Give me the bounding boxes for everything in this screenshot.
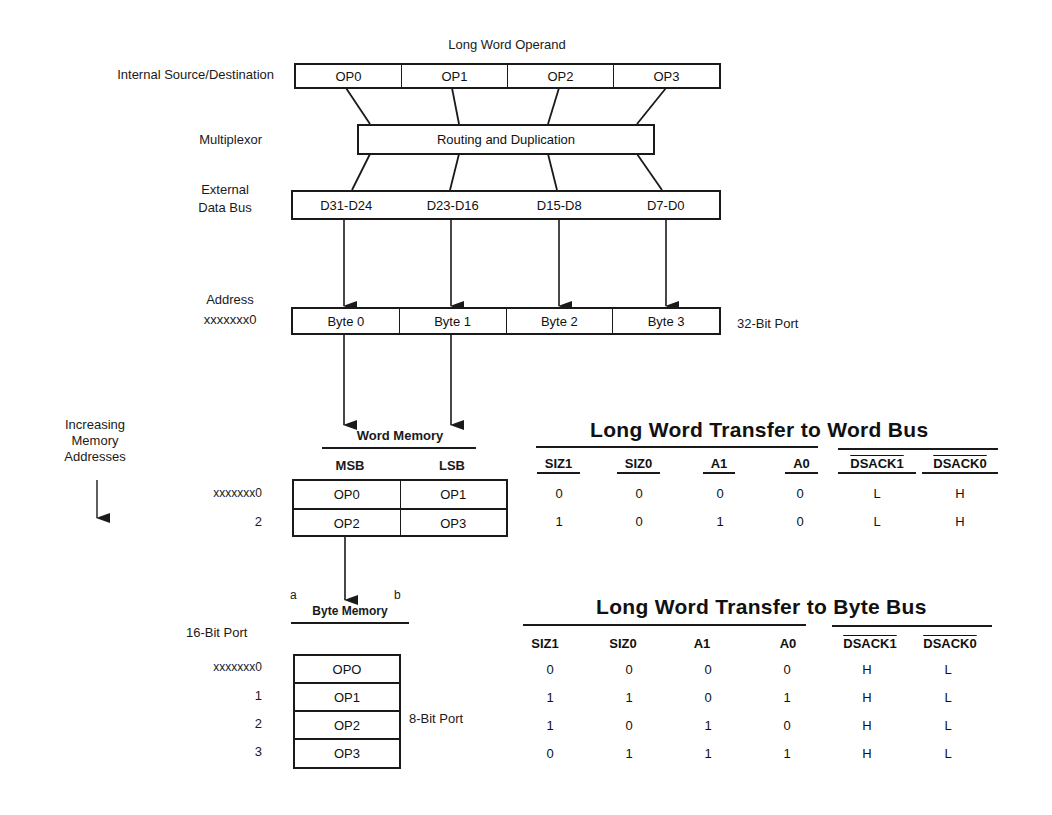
cell: L <box>862 514 892 529</box>
cell: 1 <box>544 514 574 529</box>
word-cell-op1: OP1 <box>401 481 507 508</box>
port-32-label: 32-Bit Port <box>737 316 798 331</box>
word-cell-op2: OP2 <box>294 510 401 537</box>
cell: 1 <box>693 718 723 733</box>
data-bus-d31-d24: D31-D24 <box>293 192 400 218</box>
routing-label: Routing and Duplication <box>359 126 653 153</box>
byte-cell-op3: OP3 <box>295 740 399 767</box>
byte-row-addr-3: 3 <box>180 744 262 759</box>
marker-b: b <box>394 588 401 602</box>
cell: 0 <box>772 662 802 677</box>
byte-bus-header-dsack0: DSACK0 <box>913 636 987 651</box>
word-bus-header-siz0: SIZ0 <box>617 456 660 474</box>
cell: L <box>933 690 963 705</box>
word-bus-table-title: Long Word Transfer to Word Bus <box>590 418 928 442</box>
cell: L <box>862 486 892 501</box>
port-16-label: 16-Bit Port <box>186 625 247 640</box>
cell: 0 <box>544 486 574 501</box>
byte-memory-title: Byte Memory <box>290 604 410 618</box>
word-bus-header-dsack0: DSACK0 <box>922 456 998 474</box>
cell: 0 <box>535 746 565 761</box>
cell: 1 <box>614 746 644 761</box>
byte-cell-op1: OP1 <box>295 684 399 712</box>
multiplexor-label: Multiplexor <box>100 132 262 147</box>
cell: 0 <box>785 514 815 529</box>
address-label: Address <box>180 292 280 307</box>
cell: L <box>933 718 963 733</box>
data-bus-label: Data Bus <box>180 200 270 215</box>
operand-cell-op3: OP3 <box>614 65 719 87</box>
cell: 1 <box>772 746 802 761</box>
byte-bus-header-a0: A0 <box>773 636 803 651</box>
data-bus-d7-d0: D7-D0 <box>613 192 720 218</box>
byte-bus-table-title: Long Word Transfer to Byte Bus <box>596 595 927 619</box>
data-bus-d23-d16: D23-D16 <box>400 192 507 218</box>
cell: 1 <box>693 746 723 761</box>
cell: 0 <box>624 514 654 529</box>
byte-row-addr-2: 2 <box>180 716 262 731</box>
cell: H <box>852 718 882 733</box>
byte-lane-3: Byte 3 <box>613 309 719 333</box>
internal-source-label: Internal Source/Destination <box>20 67 274 82</box>
word-memory-title: Word Memory <box>322 428 478 443</box>
word-bus-header-siz1: SIZ1 <box>537 456 580 474</box>
cell: 0 <box>705 486 735 501</box>
byte-bus-rule-left <box>523 624 806 626</box>
cell: 0 <box>785 486 815 501</box>
byte-lane-2: Byte 2 <box>507 309 614 333</box>
increasing-label-1: Increasing <box>45 417 145 432</box>
word-row-addr-1: 2 <box>180 514 262 529</box>
cell: 1 <box>535 718 565 733</box>
cell: L <box>933 662 963 677</box>
byte-row-addr-0: xxxxxxx0 <box>180 660 262 674</box>
increasing-label-2: Memory <box>45 433 145 448</box>
cell: H <box>945 486 975 501</box>
byte-bus-header-a1: A1 <box>687 636 717 651</box>
byte-cell-op2: OP2 <box>295 712 399 740</box>
byte-bus-rule-right <box>832 625 992 627</box>
cell: 0 <box>614 662 644 677</box>
operand-register: OP0 OP1 OP2 OP3 <box>294 63 721 89</box>
port-8-label: 8-Bit Port <box>409 711 463 726</box>
increasing-label-3: Addresses <box>45 449 145 464</box>
word-bus-header-dsack1: DSACK1 <box>838 456 916 474</box>
cell: 0 <box>693 690 723 705</box>
cell: H <box>852 746 882 761</box>
external-label: External <box>180 182 270 197</box>
cell: 0 <box>624 486 654 501</box>
routing-box: Routing and Duplication <box>357 124 655 155</box>
word-cell-op0: OP0 <box>294 481 401 508</box>
operand-cell-op2: OP2 <box>508 65 614 87</box>
data-bus-d15-d8: D15-D8 <box>506 192 613 218</box>
data-bus-box: D31-D24 D23-D16 D15-D8 D7-D0 <box>291 190 721 220</box>
word-cell-op3: OP3 <box>401 510 507 537</box>
byte-bus-header-dsack1: DSACK1 <box>834 636 906 651</box>
cell: H <box>945 514 975 529</box>
byte-lanes-box: Byte 0 Byte 1 Byte 2 Byte 3 <box>291 307 721 335</box>
cell: 1 <box>614 690 644 705</box>
byte-cell-op0: OPO <box>295 656 399 684</box>
cell: 1 <box>535 690 565 705</box>
word-memory-box: OP0 OP1 OP2 OP3 <box>292 479 508 537</box>
cell: 0 <box>772 718 802 733</box>
cell: 0 <box>693 662 723 677</box>
byte-lane-1: Byte 1 <box>400 309 507 333</box>
word-bus-header-a1: A1 <box>703 456 735 474</box>
cell: 1 <box>772 690 802 705</box>
operand-cell-op0: OP0 <box>296 65 402 87</box>
byte-lane-0: Byte 0 <box>293 309 400 333</box>
cell: 1 <box>705 514 735 529</box>
byte-bus-header-siz1: SIZ1 <box>528 636 562 651</box>
cell: 0 <box>535 662 565 677</box>
word-row-addr-0: xxxxxxx0 <box>180 486 262 500</box>
word-bus-rule-right <box>838 448 998 450</box>
word-bus-rule-left <box>536 446 818 448</box>
byte-memory-underline <box>291 622 409 624</box>
byte-bus-header-siz0: SIZ0 <box>606 636 640 651</box>
word-bus-header-a0: A0 <box>785 456 818 474</box>
cell: L <box>933 746 963 761</box>
cell: H <box>852 690 882 705</box>
operand-title: Long Word Operand <box>394 37 620 52</box>
word-memory-lsb-header: LSB <box>422 458 482 473</box>
marker-a: a <box>290 588 297 602</box>
